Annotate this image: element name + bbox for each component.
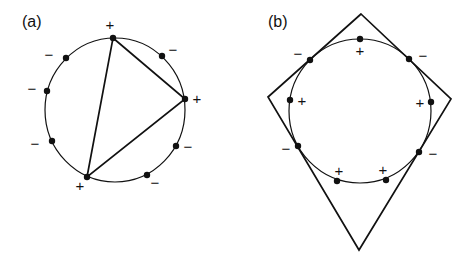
plus-sign: + [335,162,344,179]
plus-sign: + [76,177,85,194]
plus-sign: + [298,92,307,109]
point-dot [159,53,165,59]
point-dot [144,172,150,178]
minus-sign: − [294,45,303,62]
point-dot [110,35,116,41]
panel-label: (b) [268,13,288,30]
plus-sign: + [416,94,425,111]
triangle [87,38,185,177]
minus-sign: − [28,80,37,97]
plus-sign: + [106,16,115,33]
minus-sign: − [184,138,193,155]
point-dot [84,174,90,180]
figure: (a)+−+−−+−−−(b)+−+−++−+− [0,0,473,262]
minus-sign: − [45,46,54,63]
point-dot [307,57,313,63]
plus-sign: + [356,42,365,59]
panel-b: (b)+−+−++−+− [268,13,451,250]
plus-sign: + [379,161,388,178]
point-dot [44,88,50,94]
point-dot [49,138,55,144]
diagram-canvas: (a)+−+−−+−−−(b)+−+−++−+− [0,0,473,262]
minus-sign: − [31,135,40,152]
point-dot [182,96,188,102]
plus-sign: + [193,90,202,107]
point-dot [63,55,69,61]
point-dot [287,97,293,103]
point-dot [406,56,412,62]
minus-sign: − [151,174,160,191]
minus-sign: − [429,145,438,162]
minus-sign: − [282,140,291,157]
point-dot [295,143,301,149]
minus-sign: − [419,47,428,64]
point-dot [173,143,179,149]
panel-a: (a)+−+−−+−−− [22,13,202,194]
minus-sign: − [169,41,178,58]
panel-label: (a) [22,13,42,30]
point-dot [416,149,422,155]
point-dot [428,99,434,105]
